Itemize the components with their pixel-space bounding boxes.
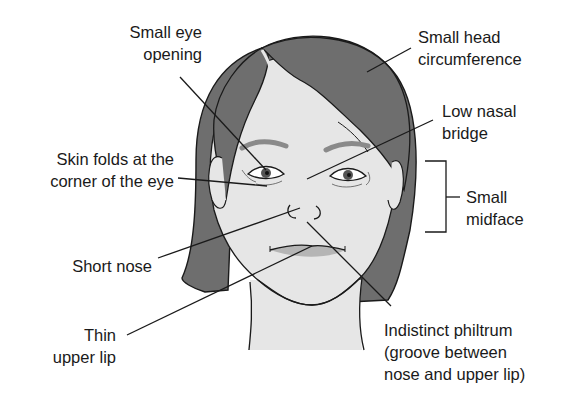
label-indistinct-philtrum: Indistinct philtrum (groove between nose… (384, 319, 525, 385)
label-skin-folds: Skin folds at the corner of the eye (20, 148, 174, 192)
label-small-head-circumference: Small head circumference (418, 26, 522, 70)
label-low-nasal-bridge: Low nasal bridge (442, 100, 516, 144)
label-small-eye-opening: Small eye opening (110, 21, 202, 65)
label-thin-upper-lip: Thin upper lip (30, 324, 116, 368)
midface-bracket (425, 161, 460, 232)
label-short-nose: Short nose (40, 255, 152, 277)
facial-features-diagram: Small eye opening Skin folds at the corn… (0, 0, 566, 396)
label-small-midface: Small midface (466, 186, 524, 230)
